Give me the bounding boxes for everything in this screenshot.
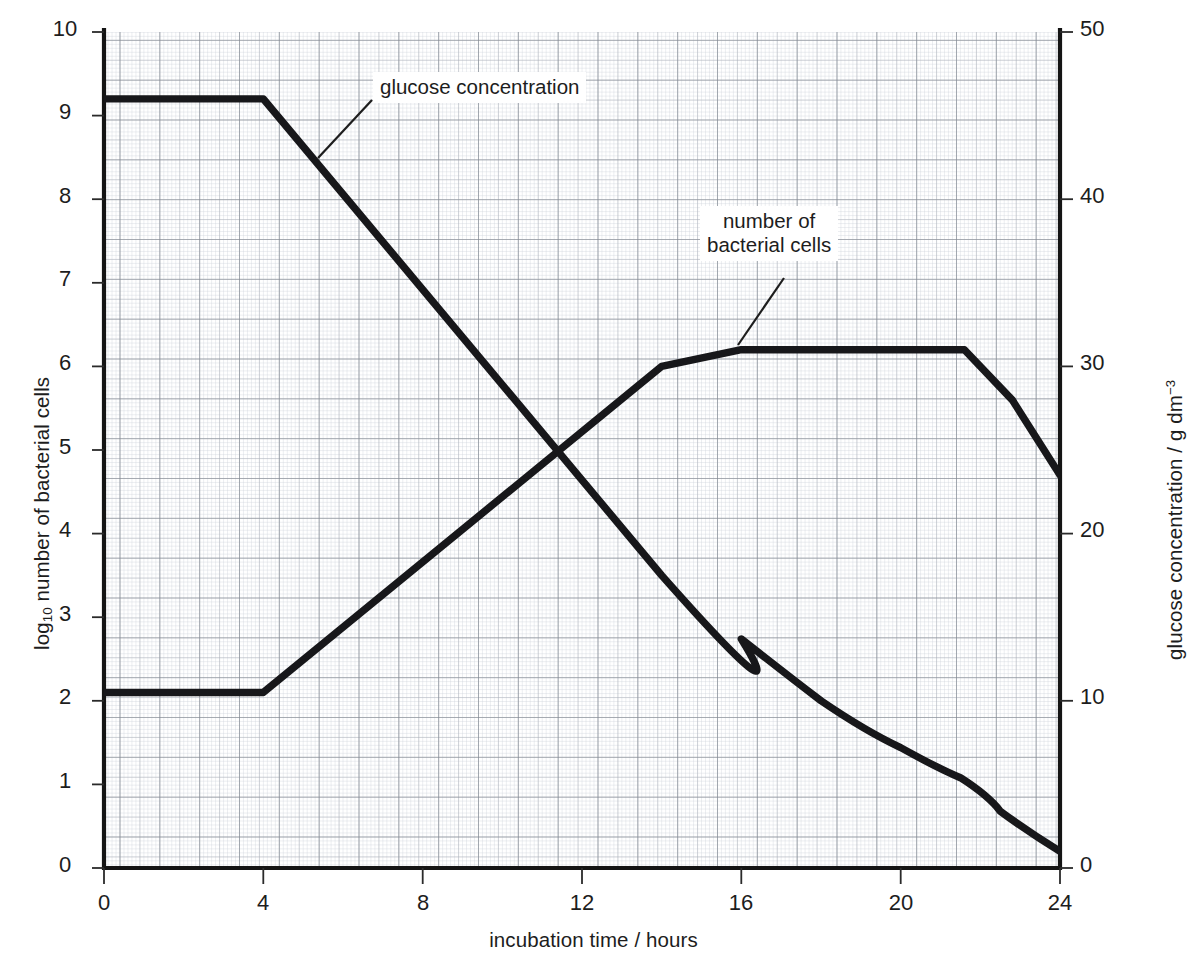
x-ticks bbox=[104, 868, 1060, 884]
y-right-tick-40: 40 bbox=[1080, 183, 1122, 209]
plot-grid bbox=[104, 32, 1060, 868]
x-tick-8: 8 bbox=[403, 890, 443, 916]
y-left-title-subscript: 10 bbox=[40, 607, 55, 622]
y-right-tick-10: 10 bbox=[1080, 684, 1122, 710]
glucose-annotation-line1: glucose concentration bbox=[380, 75, 579, 99]
bacteria-annotation-line2: bacterial cells bbox=[707, 233, 831, 257]
x-tick-24: 24 bbox=[1040, 890, 1080, 916]
y-left-tick-10: 10 bbox=[46, 16, 84, 42]
x-tick-4: 4 bbox=[243, 890, 283, 916]
y-right-tick-20: 20 bbox=[1080, 517, 1122, 543]
y-right-tick-30: 30 bbox=[1080, 350, 1122, 376]
y-axis-left-title: log10 number of bacterial cells bbox=[30, 377, 55, 650]
bacterial-cells-annotation: number of bacterial cells bbox=[700, 206, 838, 261]
y-left-title-log: log bbox=[30, 622, 53, 650]
x-tick-16: 16 bbox=[721, 890, 761, 916]
y-axis-right-title: glucose concentration / g dm−3 bbox=[1163, 380, 1187, 660]
y-right-title-main: glucose concentration / g dm bbox=[1163, 395, 1186, 660]
y-right-tick-50: 50 bbox=[1080, 16, 1122, 42]
y-right-title-superscript: −3 bbox=[1163, 380, 1178, 395]
y-left-tick-8: 8 bbox=[46, 183, 84, 209]
x-tick-0: 0 bbox=[84, 890, 124, 916]
x-tick-20: 20 bbox=[881, 890, 921, 916]
x-tick-12: 12 bbox=[562, 890, 602, 916]
y-left-tick-1: 1 bbox=[46, 768, 84, 794]
y-left-tick-2: 2 bbox=[46, 684, 84, 710]
y-right-tick-0: 0 bbox=[1080, 852, 1122, 878]
y-left-tick-0: 0 bbox=[46, 852, 84, 878]
y-left-tick-9: 9 bbox=[46, 99, 84, 125]
y-left-tick-6: 6 bbox=[46, 350, 84, 376]
x-axis-title: incubation time / hours bbox=[0, 928, 1187, 952]
chart-canvas bbox=[0, 0, 1187, 974]
y-left-tick-7: 7 bbox=[46, 266, 84, 292]
y-left-title-rest: number of bacterial cells bbox=[30, 377, 53, 607]
bacteria-annotation-line1: number of bbox=[707, 209, 831, 233]
glucose-concentration-annotation: glucose concentration bbox=[373, 72, 586, 103]
